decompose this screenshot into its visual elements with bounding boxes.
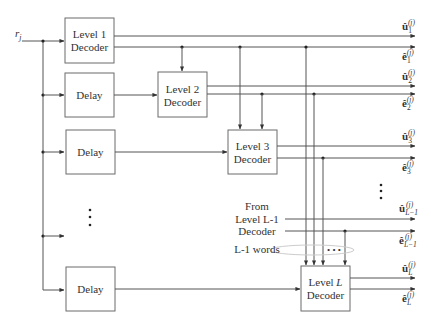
output-vertical-ellipsis — [380, 184, 383, 200]
svg-text:Level L: Level L — [309, 276, 343, 288]
output-e2: ê2(j) — [402, 95, 414, 112]
output-e1: ê1(j) — [402, 48, 414, 65]
svg-text:Delay: Delay — [76, 89, 103, 101]
junction-dot — [41, 39, 44, 42]
input-label: rj — [15, 27, 22, 42]
vertical-ellipsis — [89, 209, 92, 227]
output-uL: ûL(j) — [402, 260, 416, 277]
output-u1: û1(j) — [402, 18, 415, 35]
output-eL: êL(j) — [402, 290, 415, 307]
from-label: From — [245, 200, 269, 212]
delay1-block: Delay — [65, 73, 114, 117]
level1-decoder-block: Level 1 Decoder — [65, 18, 114, 63]
output-u2: û2(j) — [402, 68, 415, 85]
svg-text:Decoder: Decoder — [164, 96, 202, 108]
level2-decoder-block: Level 2 Decoder — [158, 72, 207, 117]
output-eL-1: êL−1(j) — [399, 232, 417, 249]
delay2-block: Delay — [66, 130, 115, 174]
word-group-ellipse — [270, 245, 354, 255]
output-e3: ê3(j) — [402, 159, 414, 176]
output-u3: û3(j) — [402, 128, 415, 145]
multistage-decoder-diagram: rj Level 1 Decoder Delay Level 2 Decoder… — [0, 0, 431, 326]
output-uL-1: ûL−1(j) — [399, 200, 418, 217]
delayL-block: Delay — [66, 267, 115, 311]
svg-text:Decoder: Decoder — [234, 153, 272, 165]
svg-text:Delay: Delay — [77, 146, 104, 158]
svg-text:Level 1: Level 1 — [73, 28, 106, 40]
svg-text:Decoder: Decoder — [307, 289, 345, 301]
output-labels: û1(j) ê1(j) û2(j) ê2(j) û3(j) ê3(j) ûL−1… — [399, 18, 418, 307]
from-decoder-label: Decoder — [238, 225, 276, 237]
svg-text:Delay: Delay — [77, 283, 104, 295]
words-ellipsis: • • • — [327, 245, 341, 255]
from-level-label: Level L-1 — [235, 213, 279, 225]
level3-decoder-block: Level 3 Decoder — [228, 130, 277, 174]
svg-text:Level 3: Level 3 — [236, 140, 270, 152]
words-label: L-1 words — [234, 243, 280, 255]
svg-text:Level 2: Level 2 — [166, 83, 199, 95]
svg-text:Decoder: Decoder — [71, 41, 109, 53]
levelL-decoder-block: Level L Decoder — [301, 266, 350, 311]
